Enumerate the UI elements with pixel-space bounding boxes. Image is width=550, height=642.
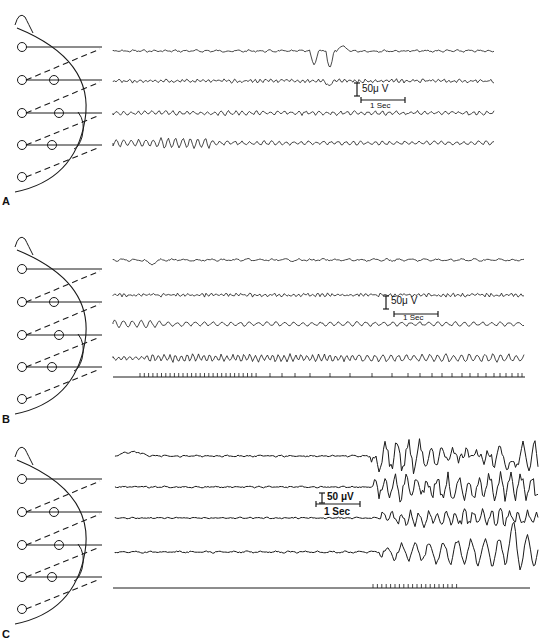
- montage-diagram-b: [0, 210, 550, 430]
- nose-outline: [15, 15, 33, 33]
- panel-label-a: A: [2, 195, 10, 207]
- voltage-calibration-label: 50 μV: [327, 491, 354, 502]
- voltage-calibration-label: 50μ V: [391, 295, 417, 306]
- nose-outline: [15, 237, 33, 255]
- voltage-calibration-label: 50μ V: [362, 83, 388, 94]
- time-calibration-label: 1 Sec: [324, 506, 350, 517]
- nose-outline: [15, 447, 33, 465]
- panel-label-b: B: [2, 413, 10, 425]
- time-calibration-label: 1 Sec: [370, 101, 390, 110]
- montage-diagram-c: [0, 430, 550, 642]
- panel-label-c: C: [2, 628, 10, 640]
- panel-a: 50μ V 1 Sec A: [0, 0, 550, 210]
- panel-b: 50μ V 1 Sec B: [0, 210, 550, 430]
- panel-c: 50 μV 1 Sec C: [0, 430, 550, 642]
- montage-diagram-a: [0, 0, 550, 210]
- time-calibration-label: 1 Sec: [403, 313, 423, 322]
